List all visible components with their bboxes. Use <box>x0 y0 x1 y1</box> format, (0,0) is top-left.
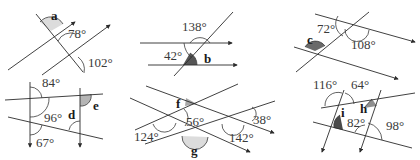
label-64: 64° <box>351 77 369 92</box>
label-42: 42° <box>164 48 182 63</box>
label-98: 98° <box>386 118 404 133</box>
angle-84-arc <box>30 87 42 98</box>
parallel-line-1 <box>8 22 75 70</box>
angle-diagrams-canvas: a 78° 102° 138° 42° b 72° 108° c <box>0 0 420 160</box>
label-67: 67° <box>36 135 54 150</box>
label-142: 142° <box>229 130 254 145</box>
label-56: 56° <box>186 114 204 129</box>
diagram-5: f 56° 124° g 142° 38° <box>130 84 275 158</box>
angle-d-arc <box>69 121 80 130</box>
angle-72-arc <box>336 16 343 36</box>
diagram-6: 116° 64° h i 82° 98° <box>313 77 415 152</box>
angle-64-arc <box>345 93 354 104</box>
label-h: h <box>360 101 368 116</box>
label-116: 116° <box>313 77 337 92</box>
label-g: g <box>191 143 198 158</box>
label-d: d <box>68 107 76 122</box>
label-e: e <box>93 98 99 113</box>
label-i: i <box>341 105 345 120</box>
label-84: 84° <box>42 75 60 90</box>
angle-67-arc <box>30 125 42 135</box>
label-124: 124° <box>134 129 159 144</box>
diagram-2: 138° 42° b <box>140 12 237 76</box>
angle-e-shade <box>80 94 91 106</box>
label-102: 102° <box>88 55 113 70</box>
label-b: b <box>204 51 211 66</box>
parallel-line-2 <box>294 47 398 79</box>
label-c: c <box>307 32 313 47</box>
diagram-4: 84° 96° 67° d e <box>5 75 103 150</box>
diagram-3: 72° 108° c <box>294 12 415 79</box>
label-82: 82° <box>347 115 365 130</box>
label-72: 72° <box>317 21 335 36</box>
label-a: a <box>51 8 58 23</box>
label-108: 108° <box>351 37 376 52</box>
label-f: f <box>176 96 181 111</box>
label-138: 138° <box>182 19 207 34</box>
label-38: 38° <box>253 112 271 127</box>
label-78: 78° <box>68 26 86 41</box>
label-96: 96° <box>44 110 62 125</box>
diagram-1: a 78° 102° <box>8 8 113 75</box>
angle-102-arc <box>78 57 84 73</box>
